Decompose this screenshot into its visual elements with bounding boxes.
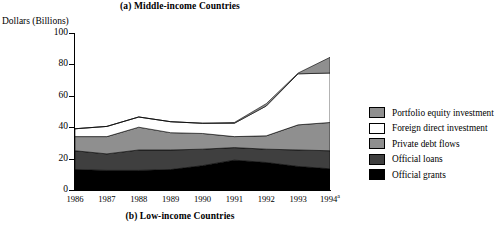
- x-tick-label: 1989: [155, 194, 187, 204]
- y-tick-mark: [69, 96, 74, 97]
- legend-item: Foreign direct investment: [369, 121, 494, 137]
- y-tick-label: 80: [0, 59, 68, 69]
- y-tick-label-text: 60: [4, 91, 68, 101]
- x-tick-label: 1987: [91, 194, 123, 204]
- x-tick-label: 1990: [187, 194, 219, 204]
- y-axis-label: Dollars (Billions): [2, 16, 69, 26]
- y-tick-label: 20: [0, 154, 68, 164]
- y-tick-label-text: 40: [4, 122, 68, 132]
- y-tick-label-text: 100: [4, 28, 68, 38]
- y-tick-mark: [69, 64, 74, 65]
- x-tick-label: 1994a: [314, 194, 346, 204]
- y-tick-label-text: 80: [4, 59, 68, 69]
- x-tick-label: 1992: [250, 194, 282, 204]
- y-tick-mark: [69, 127, 74, 128]
- x-tick-superscript: a: [337, 193, 340, 199]
- legend-label: Official loans: [392, 154, 443, 164]
- legend-swatch: [369, 154, 385, 165]
- area-series: [75, 73, 330, 137]
- y-tick-label-text: 20: [4, 154, 68, 164]
- panel-a-title: (a) Middle-income Countries: [0, 1, 360, 11]
- legend-swatch: [369, 107, 385, 118]
- panel-b-title: (b) Low-income Countries: [0, 211, 360, 221]
- y-tick-mark: [69, 159, 74, 160]
- legend-label: Private debt flows: [392, 139, 460, 149]
- y-tick-label: 0: [0, 185, 68, 195]
- legend-swatch: [369, 138, 385, 149]
- legend-item: Portfolio equity investment: [369, 105, 494, 121]
- legend-label: Foreign direct investment: [392, 123, 488, 133]
- y-tick-mark: [69, 33, 74, 34]
- legend-swatch: [369, 123, 385, 134]
- legend-item: Official grants: [369, 167, 494, 183]
- y-tick-label: 40: [0, 122, 68, 132]
- x-axis-line: [74, 190, 331, 191]
- legend-item: Official loans: [369, 152, 494, 168]
- plot-area: [75, 33, 330, 190]
- y-tick-label: 100: [0, 28, 68, 38]
- y-tick-label: 60: [0, 91, 68, 101]
- y-tick-mark: [69, 190, 74, 191]
- legend-swatch: [369, 169, 385, 180]
- x-tick-label: 1991: [218, 194, 250, 204]
- x-tick-label: 1993: [282, 194, 314, 204]
- stacked-area-chart: [75, 33, 330, 190]
- x-tick-label: 1986: [59, 194, 91, 204]
- legend-item: Private debt flows: [369, 136, 494, 152]
- legend-label: Official grants: [392, 170, 446, 180]
- legend-label: Portfolio equity investment: [392, 108, 494, 118]
- legend: Portfolio equity investmentForeign direc…: [369, 105, 494, 183]
- figure-container: (a) Middle-income Countries Dollars (Bil…: [0, 0, 504, 229]
- x-tick-label: 1988: [123, 194, 155, 204]
